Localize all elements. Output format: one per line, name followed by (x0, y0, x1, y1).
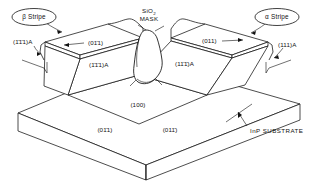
alpha-stripe-label: α Stripe (265, 13, 289, 21)
label-left-inner-sidewall: (1̄1̄1)A (89, 61, 109, 68)
left-mesa-undercut-notch (40, 42, 45, 60)
right-ledge-line (269, 60, 291, 68)
leader-mask-right (155, 26, 164, 31)
leader-beta-stripe (46, 23, 62, 32)
alpha-stripe-callout[interactable]: α Stripe (255, 9, 299, 26)
label-right-outer-sidewall: (111)A (278, 41, 297, 48)
leader-mask-left (138, 25, 146, 30)
label-left-outer-sidewall: (1̄1̄1)A (13, 38, 33, 45)
right-ledge-drop (266, 62, 269, 73)
beta-stripe-label: β Stripe (22, 13, 46, 21)
label-left-top-face: (01̄1) (88, 39, 103, 46)
crystal-etch-diagram: β Stripe α Stripe SiO2 MASK (1̄1̄1)A (01… (0, 0, 313, 181)
sio2-mask-label-line2: MASK (140, 15, 159, 22)
leader-right-outer-sidewall (274, 48, 283, 58)
right-mesa-undercut-notch (268, 42, 273, 60)
leader-alpha-stripe (251, 24, 265, 33)
label-etch-floor: (100) (130, 101, 145, 108)
label-front-left-face: (01̄1) (97, 126, 112, 133)
left-ledge-line (22, 60, 44, 68)
label-inp-substrate: InP SUBSTRATE (250, 127, 303, 134)
label-right-inner-sidewall: (11̄1̄)A (175, 60, 195, 67)
label-front-right-face: (011̄) (163, 126, 178, 133)
diagram-canvas: β Stripe α Stripe SiO2 MASK (1̄1̄1)A (01… (0, 0, 313, 181)
beta-stripe-callout[interactable]: β Stripe (12, 9, 56, 26)
sio2-mask-label-group: SiO2 MASK (140, 7, 159, 22)
label-right-top-face: (011) (202, 37, 217, 44)
